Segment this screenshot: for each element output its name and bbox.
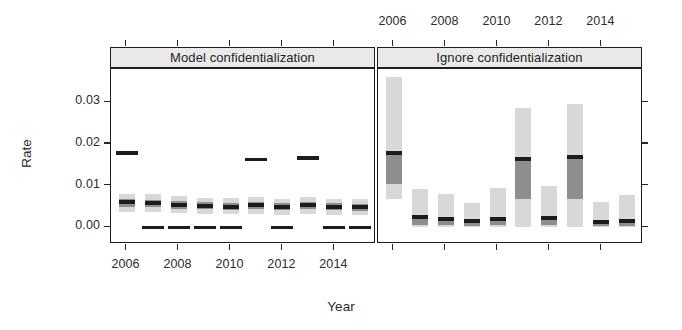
x-axis-title: Year — [0, 299, 682, 314]
x-tick-mark — [444, 40, 446, 46]
panel-strip-left-label: Model confidentialization — [170, 50, 315, 65]
y-tick-label: 0.02 — [38, 135, 100, 149]
boxplot-median-line — [352, 205, 368, 209]
y-tick-mark — [642, 184, 648, 186]
boxplot-median-line — [619, 219, 635, 223]
x-tick-mark — [444, 244, 446, 250]
x-tick-mark — [125, 244, 127, 250]
x-tick-mark — [229, 40, 231, 46]
x-tick-mark — [177, 40, 179, 46]
x-tick-mark — [548, 40, 550, 46]
x-tick-mark — [392, 40, 394, 46]
x-tick-mark — [333, 244, 335, 250]
x-tick-mark — [600, 244, 602, 250]
panel-strip-right-label: Ignore confidentialization — [436, 50, 582, 65]
boxplot-group — [111, 69, 374, 242]
boxplot-outlier-marker — [349, 226, 371, 230]
x-tick-mark — [600, 40, 602, 46]
x-tick-mark — [392, 244, 394, 250]
y-tick-label: 0.00 — [38, 218, 100, 232]
y-tick-label: 0.01 — [38, 177, 100, 191]
plot-area-right — [378, 69, 641, 242]
x-tick-mark — [496, 40, 498, 46]
boxplot-group — [378, 69, 641, 242]
plot-panel-model-confidentialization — [110, 68, 375, 243]
y-tick-mark — [642, 101, 648, 103]
x-tick-mark — [496, 244, 498, 250]
plot-area-left — [111, 69, 374, 242]
boxplot-figure: 20062008201020122014 0.000.010.020.03 Ra… — [0, 0, 682, 330]
x-tick-mark — [281, 244, 283, 250]
x-tick-label: 2014 — [303, 257, 363, 271]
y-tick-label: 0.03 — [38, 93, 100, 107]
y-tick-mark — [642, 226, 648, 228]
plot-panel-ignore-confidentialization — [377, 68, 642, 243]
x-tick-label: 2014 — [570, 14, 630, 28]
panel-strip-right: Ignore confidentialization — [377, 47, 642, 68]
panel-strip-left: Model confidentialization — [110, 47, 375, 68]
x-tick-mark — [281, 40, 283, 46]
y-axis-title: Rate — [19, 113, 34, 193]
x-tick-mark — [229, 244, 231, 250]
y-tick-mark — [642, 142, 648, 144]
x-tick-mark — [548, 244, 550, 250]
x-tick-mark — [125, 40, 127, 46]
x-tick-mark — [333, 40, 335, 46]
x-tick-mark — [177, 244, 179, 250]
